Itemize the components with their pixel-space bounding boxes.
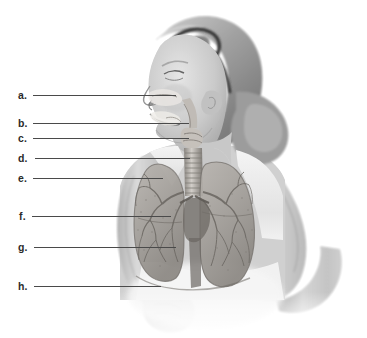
callout-line-b xyxy=(33,123,189,124)
callout-line-c xyxy=(33,138,189,139)
callout-line-f xyxy=(32,216,171,217)
callout-line-d xyxy=(35,158,190,159)
callout-line-e xyxy=(33,178,163,179)
subject-photograph xyxy=(0,0,367,338)
callout-line-g xyxy=(34,247,176,248)
callout-line-a xyxy=(33,95,176,96)
photo-svg xyxy=(0,0,367,338)
callout-line-h xyxy=(34,286,161,287)
anatomy-figure: a. b. c. d. e. f. g. h. xyxy=(0,0,367,338)
